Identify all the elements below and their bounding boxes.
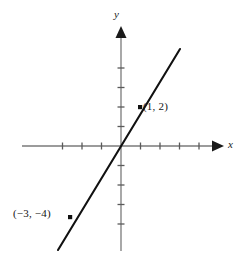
point-label-1-2: (1, 2) [143, 101, 168, 112]
x-axis-label: x [228, 139, 233, 150]
coordinate-plane-svg [0, 0, 242, 259]
point-label-neg3-neg4: (−3, −4) [13, 208, 51, 219]
point-marker-1-2 [138, 105, 142, 109]
plotted-line [58, 49, 180, 250]
y-axis-arrowhead [116, 26, 127, 38]
graph-figure: y x (1, 2) (−3, −4) [0, 0, 242, 259]
point-marker-neg3-neg4 [68, 215, 72, 219]
x-axis-arrowhead [212, 141, 224, 152]
y-axis-label: y [114, 9, 119, 20]
